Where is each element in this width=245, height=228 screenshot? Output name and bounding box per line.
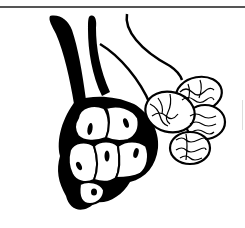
- ducts: [49, 16, 110, 104]
- edge-mark: [242, 100, 243, 130]
- thin-duct: [100, 44, 150, 104]
- gland-illustration: [0, 0, 245, 228]
- thin-duct-2: [127, 14, 182, 80]
- cell-cluster: [58, 97, 158, 210]
